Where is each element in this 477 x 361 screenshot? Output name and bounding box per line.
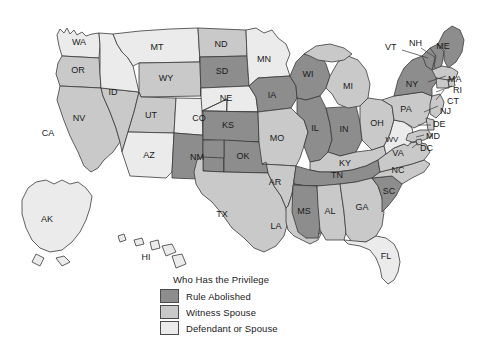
legend-label-rule-abolished: Rule Abolished <box>186 291 251 302</box>
state-label-HI: HI <box>142 252 151 262</box>
state-label-OK: OK <box>236 151 249 161</box>
legend-title: Who Has the Privilege <box>173 274 350 285</box>
state-HI[interactable] <box>118 234 186 268</box>
state-label-WY: WY <box>159 73 174 83</box>
state-AK[interactable] <box>22 180 92 266</box>
state-OK-pan[interactable] <box>203 140 224 158</box>
state-label-OH: OH <box>370 118 384 128</box>
map-legend: Who Has the Privilege Rule Abolished Wit… <box>160 274 350 337</box>
state-label-VT: VT <box>385 42 397 52</box>
state-label-PA: PA <box>400 104 411 114</box>
state-label-MD: MD <box>426 131 440 141</box>
state-label-VA: VA <box>392 148 403 158</box>
state-label-CO: CO <box>192 113 206 123</box>
state-label-DC: DC <box>420 143 433 153</box>
state-label-WI: WI <box>303 69 314 79</box>
state-label-MS: MS <box>297 206 311 216</box>
state-label-IN: IN <box>340 124 349 134</box>
state-label-AL: AL <box>324 206 335 216</box>
legend-item-defendant-or-spouse[interactable]: Defendant or Spouse <box>160 321 350 335</box>
state-label-FL: FL <box>381 251 392 261</box>
state-label-OR: OR <box>71 65 85 75</box>
state-FL[interactable] <box>344 236 400 284</box>
state-label-NM: NM <box>190 152 204 162</box>
state-label-NE: NE <box>220 93 233 103</box>
legend-label-witness-spouse: Witness Spouse <box>186 307 256 318</box>
legend-swatch-witness-spouse <box>160 305 179 319</box>
state-label-NC: NC <box>392 165 405 175</box>
state-label-ND: ND <box>215 39 228 49</box>
state-label-GA: GA <box>355 202 368 212</box>
state-label-KY: KY <box>339 158 351 168</box>
state-label-TX: TX <box>216 209 228 219</box>
state-label-CT: CT <box>447 96 459 106</box>
legend-item-rule-abolished[interactable]: Rule Abolished <box>160 289 350 303</box>
state-label-NV: NV <box>73 113 86 123</box>
legend-swatch-rule-abolished <box>160 289 179 303</box>
state-label-WA: WA <box>72 37 86 47</box>
state-label-NH: NH <box>409 38 422 48</box>
state-label-NY: NY <box>406 79 419 89</box>
state-label-KS: KS <box>222 120 234 130</box>
us-privilege-map: WA OR CA NV ID MT WY UT AZ CO NM ND SD N… <box>0 0 477 361</box>
state-label-UT: UT <box>145 110 157 120</box>
state-label-AK: AK <box>41 214 53 224</box>
state-label-IL: IL <box>311 123 319 133</box>
state-label-TN: TN <box>331 170 343 180</box>
legend-swatch-defendant-or-spouse <box>160 321 179 335</box>
state-label-WV: WV <box>386 135 400 144</box>
state-label-AZ: AZ <box>143 150 155 160</box>
state-label-ID: ID <box>109 87 119 97</box>
state-label-DE: DE <box>433 119 446 129</box>
legend-item-witness-spouse[interactable]: Witness Spouse <box>160 305 350 319</box>
state-label-SC: SC <box>383 186 396 196</box>
state-label-RI: RI <box>453 85 462 95</box>
state-label-MA: MA <box>448 74 462 84</box>
state-label-IA: IA <box>268 90 277 100</box>
state-label-MI: MI <box>343 81 353 91</box>
state-label-LA: LA <box>270 221 281 231</box>
legend-label-defendant-or-spouse: Defendant or Spouse <box>186 323 278 334</box>
state-label-SD: SD <box>216 66 229 76</box>
state-label-CA: CA <box>42 128 55 138</box>
state-label-MT: MT <box>151 42 164 52</box>
state-label-NJ: NJ <box>440 106 451 116</box>
state-label-AR: AR <box>269 177 282 187</box>
state-label-MO: MO <box>270 133 285 143</box>
state-label-ME: ME <box>436 41 450 51</box>
state-label-MN: MN <box>257 54 271 64</box>
